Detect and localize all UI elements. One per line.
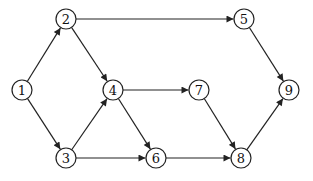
edges-group [27,19,283,158]
edge-4-to-6-arrow [118,98,150,149]
edge-3-to-4-arrow [72,99,107,150]
node-label: 8 [237,151,245,166]
node-label: 9 [285,83,293,98]
edge-1-to-2-arrow [27,28,60,82]
node-label: 4 [109,83,117,98]
node-4: 4 [103,80,123,100]
edge-1-to-3-arrow [27,98,60,149]
node-1: 1 [12,80,32,100]
node-label: 2 [62,12,70,27]
node-3: 3 [56,148,76,168]
edge-8-to-9-arrow [247,99,283,150]
nodes-group: 123456789 [12,9,299,168]
node-7: 7 [189,80,209,100]
edge-5-to-9-arrow [249,27,283,81]
node-label: 5 [240,12,248,27]
directed-graph: 123456789 [0,0,313,181]
node-label: 1 [18,83,26,98]
node-5: 5 [234,9,254,29]
node-2: 2 [56,9,76,29]
node-6: 6 [146,148,166,168]
edge-7-to-8-arrow [204,99,235,150]
node-8: 8 [231,148,251,168]
node-9: 9 [279,80,299,100]
edge-2-to-4-arrow [72,27,108,81]
node-label: 3 [62,151,70,166]
node-label: 7 [195,83,203,98]
node-label: 6 [152,151,160,166]
